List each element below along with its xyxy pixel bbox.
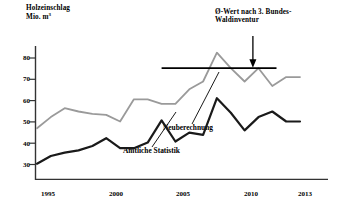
leader-line-neuberechnung [192,72,219,124]
line-series-amtliche-statistik [37,98,300,164]
plot-area [0,0,339,207]
y-axis-ticks [29,58,36,165]
chart-container: Holzeinschlag Mio. m3 Ø-Wert nach 3. Bun… [0,0,339,207]
reference-arrow-head [249,59,256,67]
